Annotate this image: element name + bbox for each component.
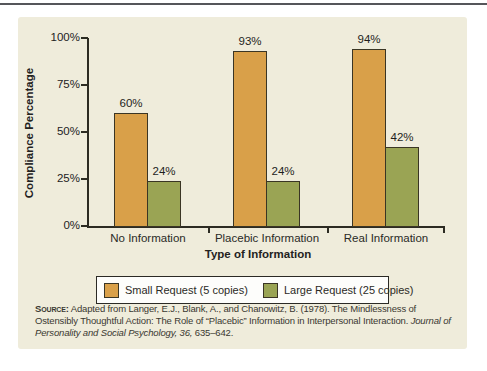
source-text-segment: Adapted from Langer, E.J., Blank, A., an… — [35, 303, 416, 326]
source-text-segment: 635–642. — [192, 327, 233, 338]
bar-small-request — [233, 51, 267, 227]
y-tick-label: 25% — [34, 172, 80, 184]
figure-panel: Compliance Percentage 0%25%50%75%100% 60… — [18, 17, 467, 349]
large-request-swatch-icon — [263, 283, 278, 298]
bar-large-request — [385, 147, 419, 227]
x-tick-mark — [327, 226, 329, 233]
y-axis-line — [87, 38, 89, 228]
bar-value-label: 42% — [390, 131, 413, 143]
source-text: Adapted from Langer, E.J., Blank, A., an… — [35, 303, 451, 338]
y-tick-mark — [81, 131, 88, 133]
y-tick-mark — [81, 37, 88, 39]
legend-box: Small Request (5 copies)Large Request (2… — [96, 276, 389, 304]
category-label: No Information — [110, 232, 185, 244]
bar-value-label: 24% — [152, 165, 175, 177]
bar-value-label: 60% — [119, 97, 142, 109]
bar-value-label: 93% — [238, 35, 261, 47]
bar-small-request — [352, 49, 386, 227]
source-note: Source: Adapted from Langer, E.J., Blank… — [35, 303, 451, 339]
legend-label: Large Request (25 copies) — [284, 284, 414, 296]
bar-large-request — [266, 181, 300, 227]
page-top-rule — [0, 3, 487, 5]
y-tick-mark — [81, 84, 88, 86]
source-label: Source: — [35, 303, 69, 314]
y-tick-label: 100% — [34, 31, 80, 43]
bar-value-label: 24% — [271, 165, 294, 177]
x-tick-mark — [208, 226, 210, 233]
legend-label: Small Request (5 copies) — [125, 284, 248, 296]
legend-item: Small Request (5 copies) — [104, 283, 248, 298]
category-label: Real Information — [344, 232, 428, 244]
bar-large-request — [147, 181, 181, 227]
x-axis-title: Type of Information — [205, 248, 311, 260]
bar-small-request — [114, 113, 148, 227]
legend-items: Small Request (5 copies)Large Request (2… — [104, 283, 414, 298]
legend-item: Large Request (25 copies) — [263, 283, 414, 298]
y-tick-label: 0% — [34, 219, 80, 231]
bar-value-label: 94% — [357, 33, 380, 45]
y-tick-mark — [81, 225, 88, 227]
x-tick-mark — [443, 226, 445, 233]
y-tick-mark — [81, 178, 88, 180]
y-tick-label: 75% — [34, 78, 80, 90]
bar-chart: Compliance Percentage 0%25%50%75%100% 60… — [18, 17, 467, 349]
category-label: Placebic Information — [215, 232, 319, 244]
y-tick-label: 50% — [34, 125, 80, 137]
small-request-swatch-icon — [104, 283, 119, 298]
